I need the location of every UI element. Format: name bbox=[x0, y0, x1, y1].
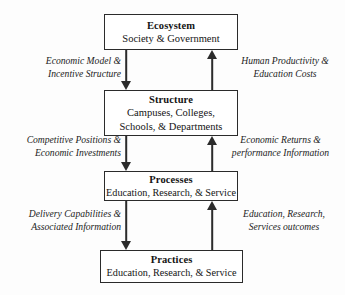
diagram-canvas: Ecosystem Society & Government Structure… bbox=[0, 0, 345, 295]
node-structure-subtitle-line1: Campuses, Colleges, bbox=[127, 106, 215, 120]
edge-label-line2: Education Costs bbox=[228, 68, 342, 81]
arrow-structure-to-processes bbox=[120, 136, 132, 171]
arrowhead-up-icon bbox=[207, 50, 217, 59]
node-ecosystem-subtitle: Society & Government bbox=[122, 32, 219, 46]
node-structure-subtitle-line2: Schools, & Departments bbox=[120, 120, 223, 134]
edge-label-line2: Associated Information bbox=[29, 221, 121, 234]
arrowhead-down-icon bbox=[121, 162, 131, 171]
node-practices-subtitle: Education, Research, & Service bbox=[107, 266, 237, 280]
edge-label-line2: Incentive Structure bbox=[46, 68, 121, 81]
arrowhead-up-icon bbox=[207, 201, 217, 210]
node-ecosystem-title: Ecosystem bbox=[147, 19, 195, 32]
node-structure: Structure Campuses, Colleges, Schools, &… bbox=[104, 90, 238, 136]
arrow-processes-to-structure bbox=[206, 136, 218, 171]
edge-label-ecosystem-to-structure: Economic Model & Incentive Structure bbox=[46, 55, 121, 81]
edge-label-structure-to-processes: Competitive Positions & Economic Investm… bbox=[27, 134, 121, 160]
edge-label-line1: Economic Returns & bbox=[222, 134, 339, 147]
edge-label-line1: Competitive Positions & bbox=[27, 134, 121, 147]
edge-label-processes-to-practices: Delivery Capabilities & Associated Infor… bbox=[29, 208, 121, 234]
arrowhead-down-icon bbox=[121, 241, 131, 250]
edge-label-practices-to-processes: Education, Research, Services outcomes bbox=[228, 208, 340, 234]
edge-label-line2: performance Information bbox=[222, 147, 339, 160]
edge-label-line2: Services outcomes bbox=[228, 221, 340, 234]
node-processes-title: Processes bbox=[149, 173, 192, 186]
edge-label-line2: Economic Investments bbox=[27, 147, 121, 160]
node-structure-title: Structure bbox=[149, 93, 193, 106]
edge-label-line1: Economic Model & bbox=[46, 55, 121, 68]
node-processes-subtitle: Education, Research, & Service bbox=[106, 186, 236, 200]
arrow-shaft bbox=[211, 144, 213, 171]
node-practices: Practices Education, Research, & Service bbox=[100, 250, 243, 283]
arrow-shaft bbox=[125, 201, 127, 242]
arrow-shaft bbox=[211, 209, 213, 250]
node-practices-title: Practices bbox=[151, 253, 193, 266]
arrowhead-up-icon bbox=[207, 136, 217, 145]
arrow-shaft bbox=[125, 136, 127, 163]
edge-label-processes-to-structure: Economic Returns & performance Informati… bbox=[222, 134, 339, 160]
arrow-shaft bbox=[125, 50, 127, 82]
arrow-structure-to-ecosystem bbox=[206, 50, 218, 90]
arrowhead-down-icon bbox=[121, 81, 131, 90]
node-processes: Processes Education, Research, & Service bbox=[104, 171, 238, 201]
edge-label-line1: Delivery Capabilities & bbox=[29, 208, 121, 221]
node-ecosystem: Ecosystem Society & Government bbox=[104, 14, 238, 50]
arrow-ecosystem-to-structure bbox=[120, 50, 132, 90]
edge-label-structure-to-ecosystem: Human Productivity & Education Costs bbox=[228, 55, 342, 81]
edge-label-line1: Human Productivity & bbox=[228, 55, 342, 68]
edge-label-line1: Education, Research, bbox=[228, 208, 340, 221]
arrow-practices-to-processes bbox=[206, 201, 218, 250]
arrow-shaft bbox=[211, 58, 213, 90]
arrow-processes-to-practices bbox=[120, 201, 132, 250]
